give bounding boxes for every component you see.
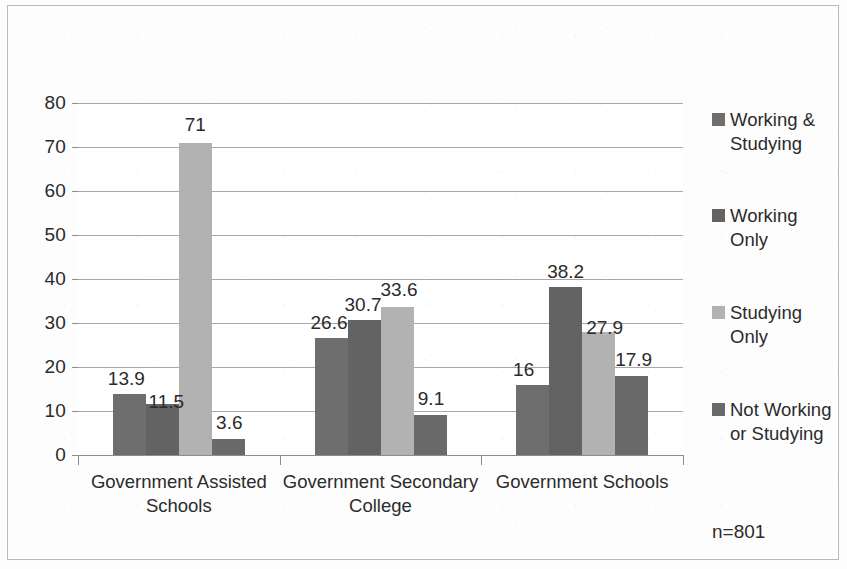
x-axis-tick-mark (481, 456, 482, 465)
bar-value-label: 3.6 (189, 412, 269, 434)
legend-item[interactable]: Working Only (712, 204, 837, 252)
legend-item[interactable]: Not Working or Studying (712, 398, 837, 446)
x-axis-line (78, 455, 684, 456)
bar-value-label: 38.2 (526, 261, 606, 283)
legend-item[interactable]: Studying Only (712, 301, 837, 349)
bar-value-label: 33.6 (359, 279, 439, 301)
x-axis-category-label: Government Assisted Schools (70, 470, 288, 518)
x-axis-category-label: Government Schools (473, 470, 691, 494)
y-axis-tick-mark (72, 191, 78, 192)
chart-figure: 01020304050607080 13.926.61611.530.738.2… (0, 0, 847, 569)
legend-label: Working & Studying (730, 108, 837, 156)
legend-swatch-icon (712, 306, 725, 319)
x-axis-tick-mark (280, 456, 281, 465)
y-axis-tick-mark (72, 323, 78, 324)
sample-size-annotation: n=801 (712, 521, 765, 543)
bar-value-label: 9.1 (391, 388, 471, 410)
legend-swatch-icon (712, 209, 725, 222)
y-axis-tick-mark (72, 411, 78, 412)
legend-swatch-icon (712, 403, 725, 416)
y-axis-tick-mark (72, 455, 78, 456)
legend-label: Studying Only (730, 301, 837, 349)
bar-value-label: 27.9 (565, 317, 645, 339)
legend-item[interactable]: Working & Studying (712, 108, 837, 156)
y-axis-tick-mark (72, 147, 78, 148)
y-axis-tick-mark (72, 235, 78, 236)
legend-label: Working Only (730, 204, 837, 252)
x-axis-tick-mark (683, 456, 684, 465)
bar-value-label: 17.9 (594, 349, 674, 371)
bar-value-label: 11.5 (126, 391, 206, 413)
x-axis-category-label: Government Secondary College (272, 470, 490, 518)
y-axis-tick-mark (72, 279, 78, 280)
bar-value-label: 16 (484, 359, 564, 381)
legend-label: Not Working or Studying (730, 398, 837, 446)
x-axis-tick-mark (78, 456, 79, 465)
y-axis-tick-mark (72, 367, 78, 368)
bar-value-label: 71 (155, 114, 235, 136)
bar-value-label: 13.9 (86, 368, 166, 390)
y-axis-tick-mark (72, 103, 78, 104)
legend-swatch-icon (712, 113, 725, 126)
